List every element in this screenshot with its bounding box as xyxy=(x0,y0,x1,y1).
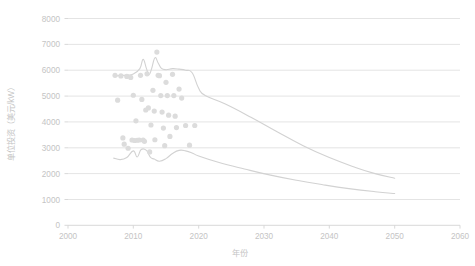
scatter-point xyxy=(176,86,181,91)
scatter-point xyxy=(120,135,125,140)
scatter-point xyxy=(115,98,120,103)
scatter-point xyxy=(173,114,178,119)
y-tick-label: 8000 xyxy=(42,15,61,24)
scatter-point xyxy=(150,88,155,93)
y-tick-label: 0 xyxy=(55,221,60,230)
scatter-point xyxy=(187,143,192,148)
scatter-point xyxy=(152,108,157,113)
y-tick-label: 3000 xyxy=(42,144,61,153)
scatter-point xyxy=(147,149,152,154)
x-tick-label: 2020 xyxy=(190,232,209,241)
scatter-point xyxy=(138,73,143,78)
x-tick-label: 2050 xyxy=(386,232,405,241)
scatter-point xyxy=(162,143,167,148)
scatter-point xyxy=(144,71,149,76)
chart-background xyxy=(0,0,475,266)
scatter-point xyxy=(171,93,176,98)
scatter-point xyxy=(163,80,168,85)
scatter-point xyxy=(146,105,151,110)
y-tick-label: 7000 xyxy=(42,40,61,49)
y-tick-label: 1000 xyxy=(42,196,61,205)
scatter-point xyxy=(112,73,117,78)
y-tick-label: 5000 xyxy=(42,92,61,101)
scatter-point xyxy=(142,139,147,144)
scatter-point xyxy=(148,122,153,127)
scatter-point xyxy=(157,73,162,78)
x-tick-label: 2040 xyxy=(320,232,339,241)
scatter-point xyxy=(179,96,184,101)
y-axis-title: 单位投资（美元/kW） xyxy=(6,83,16,161)
scatter-point xyxy=(133,118,138,123)
scatter-point xyxy=(192,123,197,128)
scatter-point xyxy=(183,123,188,128)
scatter-point xyxy=(131,93,136,98)
chart-figure: 8000 7000 6000 5000 4000 3000 2000 1000 … xyxy=(0,0,475,266)
x-tick-label: 2000 xyxy=(59,232,78,241)
scatter-point xyxy=(152,137,157,142)
scatter-point xyxy=(161,126,166,131)
y-tick-label: 6000 xyxy=(42,66,61,75)
x-axis-title: 年份 xyxy=(232,248,248,258)
scatter-point xyxy=(154,50,159,55)
y-tick-label: 2000 xyxy=(42,170,61,179)
x-tick-label: 2010 xyxy=(124,232,143,241)
scatter-point xyxy=(118,73,123,78)
scatter-point xyxy=(159,109,164,114)
x-tick-label: 2030 xyxy=(255,232,274,241)
y-tick-label: 4000 xyxy=(42,118,61,127)
scatter-point xyxy=(126,146,131,151)
scatter-point xyxy=(174,125,179,130)
scatter-point xyxy=(158,93,163,98)
chart-svg: 8000 7000 6000 5000 4000 3000 2000 1000 … xyxy=(0,0,475,266)
scatter-point xyxy=(166,113,171,118)
x-tick-label: 2060 xyxy=(451,232,470,241)
scatter-point xyxy=(139,97,144,102)
y-axis-tick-labels: 8000 7000 6000 5000 4000 3000 2000 1000 … xyxy=(42,15,61,231)
scatter-point xyxy=(170,72,175,77)
scatter-point xyxy=(128,75,133,80)
scatter-point xyxy=(122,142,127,147)
scatter-point xyxy=(167,134,172,139)
scatter-point xyxy=(165,93,170,98)
